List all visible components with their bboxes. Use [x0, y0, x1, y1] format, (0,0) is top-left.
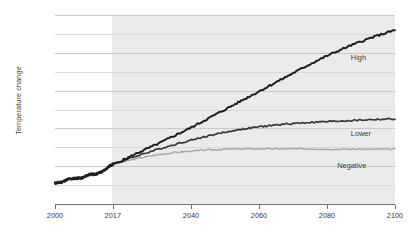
series-line-historical	[55, 164, 113, 184]
series-label-high: High	[351, 53, 366, 62]
x-tick-mark	[55, 205, 56, 209]
x-tick-label: 2100	[387, 211, 403, 220]
x-tick-mark	[395, 205, 396, 209]
y-axis-title: Temperature change	[14, 21, 23, 181]
series-label-lower: Lower	[351, 129, 371, 138]
series-line-lower	[113, 118, 395, 165]
x-tick-label: 2000	[47, 211, 63, 220]
temperature-change-chart: Temperature change 0°C1°C2°C3°C4°C5°C 20…	[0, 0, 420, 245]
x-tick-mark	[327, 205, 328, 209]
series-lines	[55, 15, 395, 204]
x-tick-label: 2040	[183, 211, 199, 220]
x-axis-line	[55, 204, 395, 205]
x-tick-label: 2017	[105, 211, 121, 220]
x-tick-mark	[259, 205, 260, 209]
series-line-high	[113, 30, 395, 163]
x-tick-label: 2080	[319, 211, 335, 220]
series-label-negative: Negative	[337, 161, 366, 170]
x-tick-mark	[113, 205, 114, 209]
x-tick-label: 2060	[251, 211, 267, 220]
x-tick-mark	[191, 205, 192, 209]
